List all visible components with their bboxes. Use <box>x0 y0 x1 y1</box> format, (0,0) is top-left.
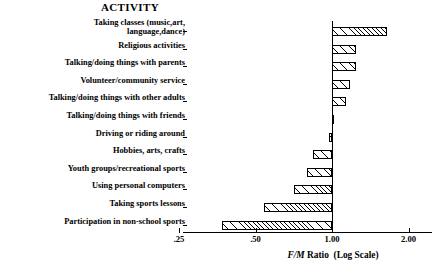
category-tick-mark <box>183 66 187 67</box>
category-tick-mark <box>183 172 187 173</box>
category-label: Taking sports lessons <box>0 199 185 208</box>
chart-row: Religious activities <box>0 41 432 59</box>
category-label: Hobbies, arts, crafts <box>0 146 185 155</box>
bar <box>332 45 356 54</box>
category-label: Volunteer/community service <box>0 76 185 85</box>
plot-area: Taking classes (music,art, language,danc… <box>0 21 432 233</box>
category-label: Talking/doing things with parents <box>0 58 185 67</box>
category-tick-mark <box>183 137 187 138</box>
category-tick-mark <box>183 225 187 226</box>
category-tick-mark <box>183 49 187 50</box>
reference-line-at-one <box>332 21 333 233</box>
x-tick <box>332 228 333 233</box>
x-tick <box>409 228 410 233</box>
bar <box>313 150 332 159</box>
bar <box>332 80 350 89</box>
activity-bar-chart: ACTIVITY Taking classes (music,art, lang… <box>0 0 432 270</box>
category-label: Taking classes (music,art, language,danc… <box>0 18 185 36</box>
x-axis-title: F/M Ratio (Log Scale) <box>203 250 432 260</box>
chart-row: Talking/doing things with other adults <box>0 93 432 111</box>
bar <box>264 203 332 212</box>
x-tick-label: .25 <box>159 234 199 244</box>
x-tick-label: 1.00 <box>312 234 352 244</box>
category-label: Religious activities <box>0 41 185 50</box>
category-tick-mark <box>183 119 187 120</box>
bar <box>307 168 332 177</box>
bar <box>222 221 332 230</box>
category-label: Talking/doing things with friends <box>0 111 185 120</box>
category-tick-mark <box>183 101 187 102</box>
x-tick <box>179 228 180 233</box>
category-label: Using personal computers <box>0 181 185 190</box>
x-axis-line <box>183 232 432 233</box>
category-label: Participation in non-school sports <box>0 217 185 226</box>
chart-row: Using personal computers <box>0 181 432 199</box>
page-title: ACTIVITY <box>0 1 260 13</box>
category-tick-mark <box>183 189 187 190</box>
chart-row: Volunteer/community service <box>0 76 432 94</box>
chart-row: Taking sports lessons <box>0 199 432 217</box>
category-label: Talking/doing things with other adults <box>0 93 185 102</box>
chart-row: Taking classes (music,art, language,danc… <box>0 23 432 41</box>
category-tick-mark <box>183 154 187 155</box>
bar <box>332 27 387 36</box>
x-tick-label: .50 <box>236 234 276 244</box>
category-label: Youth groups/recreational sports <box>0 164 185 173</box>
chart-row: Driving or riding around <box>0 129 432 147</box>
chart-row: Hobbies, arts, crafts <box>0 146 432 164</box>
bar <box>332 62 356 71</box>
category-tick-mark <box>183 31 187 32</box>
chart-row: Youth groups/recreational sports <box>0 164 432 182</box>
x-tick <box>256 228 257 233</box>
chart-row: Talking/doing things with parents <box>0 58 432 76</box>
x-tick-label: 2.00 <box>389 234 429 244</box>
chart-row: Talking/doing things with friends <box>0 111 432 129</box>
bar <box>294 185 332 194</box>
bar <box>332 97 346 106</box>
category-label: Driving or riding around <box>0 129 185 138</box>
category-tick-mark <box>183 207 187 208</box>
category-tick-mark <box>183 84 187 85</box>
